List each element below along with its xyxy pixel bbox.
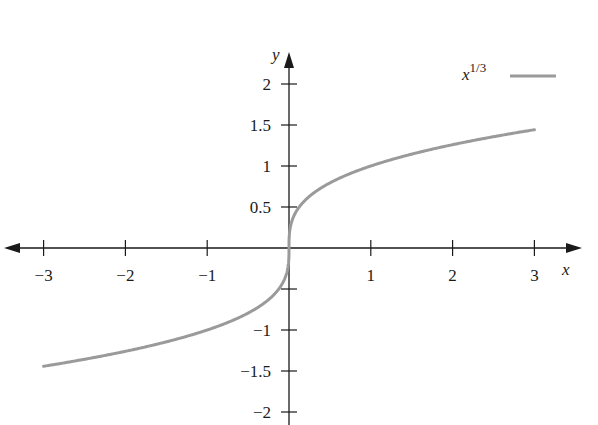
y-tick-label: 0.5 [250, 198, 271, 217]
x-tick-label: 1 [367, 266, 376, 285]
axes [4, 52, 582, 425]
y-tick-label: −2 [253, 403, 271, 422]
y-tick-label: −1.5 [240, 362, 271, 381]
y-tick-label: 2 [263, 75, 272, 94]
x-tick-label: −3 [35, 266, 53, 285]
x-tick-label: 3 [530, 266, 539, 285]
legend-label: x1/3 [461, 60, 486, 84]
x-ticks: −3−2−1123 [35, 240, 539, 285]
x-axis-left-arrow-icon [4, 243, 20, 253]
x-tick-label: 2 [448, 266, 457, 285]
legend: x1/3 [461, 60, 556, 84]
chart-canvas: −3−2−1123 21.510.5−1−1.5−2 x y x1/3 [0, 0, 598, 425]
y-tick-label: 1.5 [250, 116, 271, 135]
y-axis-label: y [270, 45, 280, 64]
y-tick-label: −1 [253, 321, 271, 340]
legend-exponent: 1/3 [470, 60, 487, 75]
y-tick-label: 1 [263, 157, 272, 176]
y-axis-up-arrow-icon [284, 52, 294, 68]
x-tick-label: −1 [198, 266, 216, 285]
x-axis-right-arrow-icon [566, 243, 582, 253]
x-tick-label: −2 [116, 266, 134, 285]
x-axis-label: x [561, 260, 570, 279]
